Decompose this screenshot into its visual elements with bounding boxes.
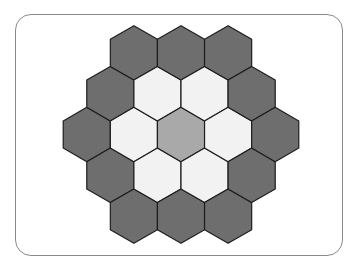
- hex-grid: [0, 0, 362, 267]
